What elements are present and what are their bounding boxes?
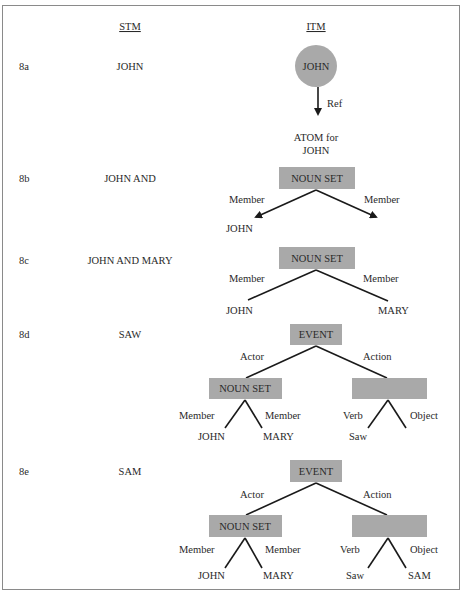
- edge-label-left: Member: [229, 194, 265, 205]
- stm-header: STM: [119, 21, 141, 32]
- leaf: JOHN: [198, 570, 225, 581]
- stm-content: JOHN AND MARY: [87, 255, 173, 266]
- stm-content: JOHN: [117, 61, 144, 72]
- edge-label-right: Action: [363, 351, 392, 362]
- row-8c: 8c JOHN AND MARY NOUN SET Member Member …: [19, 247, 409, 316]
- edge-label-left: Member: [229, 273, 265, 284]
- edge-label: Member: [265, 544, 301, 555]
- edge-label-left: Actor: [240, 351, 264, 362]
- edge-label: Verb: [340, 544, 360, 555]
- edge-label: Ref: [327, 98, 343, 109]
- edge-label: Member: [265, 410, 301, 421]
- edge-label: Object: [410, 410, 438, 421]
- edge-label: Member: [179, 544, 215, 555]
- row-8a: 8a JOHN JOHN Ref ATOM for JOHN: [19, 45, 343, 156]
- edge-label-right: Member: [363, 273, 399, 284]
- row-label: 8a: [19, 61, 29, 72]
- row-label: 8c: [19, 255, 29, 266]
- verb-edge: [368, 400, 388, 428]
- member-edge-left: [225, 538, 245, 568]
- member-arrow-left: [256, 190, 316, 217]
- stm-content: SAW: [119, 329, 142, 340]
- edge-label-right: Member: [364, 194, 400, 205]
- stm-content: JOHN AND: [104, 173, 156, 184]
- edge-label: Verb: [343, 410, 363, 421]
- concept-node-label: JOHN: [303, 61, 330, 72]
- leaf: Saw: [346, 570, 365, 581]
- node-label: NOUN SET: [219, 383, 271, 394]
- row-8d: 8d SAW EVENT Actor Action NOUN SET Membe…: [19, 324, 438, 442]
- memory-diagram: STM ITM 8a JOHN JOHN Ref ATOM for JOHN 8…: [0, 0, 467, 602]
- row-8e: 8e SAM EVENT Actor Action NOUN SET Membe…: [19, 460, 438, 581]
- row-label: 8e: [19, 466, 29, 477]
- action-node: [352, 378, 427, 399]
- leaf-left: JOHN: [226, 223, 253, 234]
- node-label: EVENT: [299, 329, 334, 340]
- member-edge-right: [245, 538, 262, 568]
- leaf: Saw: [349, 431, 368, 442]
- stm-content: SAM: [119, 466, 142, 477]
- leaf: SAM: [408, 570, 431, 581]
- member-edge-left: [225, 400, 245, 428]
- edge-label: Object: [410, 544, 438, 555]
- atom-label-line2: JOHN: [303, 145, 330, 156]
- object-edge: [388, 538, 406, 568]
- node-label: EVENT: [299, 466, 334, 477]
- member-edge-right: [245, 400, 262, 428]
- atom-label-line1: ATOM for: [294, 132, 339, 143]
- node-label: NOUN SET: [219, 521, 271, 532]
- node-label: NOUN SET: [291, 173, 343, 184]
- leaf: MARY: [263, 431, 294, 442]
- leaf-right: MARY: [378, 305, 409, 316]
- edge-label: Member: [179, 410, 215, 421]
- action-node: [352, 515, 427, 537]
- node-label: NOUN SET: [291, 253, 343, 264]
- object-edge: [388, 400, 406, 428]
- row-label: 8d: [19, 329, 30, 340]
- leaf-left: JOHN: [226, 305, 253, 316]
- leaf: JOHN: [198, 431, 225, 442]
- verb-edge: [368, 538, 388, 568]
- row-8b: 8b JOHN AND NOUN SET Member Member JOHN: [19, 167, 400, 234]
- leaf: MARY: [263, 570, 294, 581]
- itm-header: ITM: [306, 21, 326, 32]
- row-label: 8b: [19, 173, 30, 184]
- edge-label-right: Action: [363, 489, 392, 500]
- edge-label-left: Actor: [240, 489, 264, 500]
